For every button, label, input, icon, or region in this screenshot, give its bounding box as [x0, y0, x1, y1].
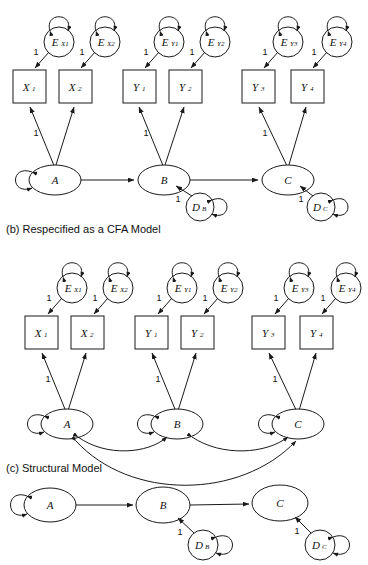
- panel-c-factor-C: C: [252, 485, 308, 521]
- label-X1-sub: 1: [32, 85, 36, 93]
- panel-b-error-EY1: E Y1: [167, 263, 197, 303]
- coef-1: 1: [155, 374, 160, 384]
- panel-a-error-EY2: E Y2: [200, 17, 230, 57]
- panel-b-indicator-Y2: Y 2: [181, 316, 214, 349]
- coef-1: 1: [143, 47, 148, 57]
- panel-b-error-EY3: E Y3: [284, 263, 314, 303]
- coef-1: 1: [273, 293, 278, 303]
- label-EY3-sub: Y3: [290, 40, 298, 48]
- panel-a-indicator-Y2: Y 2: [169, 70, 202, 103]
- path-B-to-Y2: [164, 107, 184, 168]
- path-A-to-X2: [67, 353, 86, 414]
- caption-panel-b: (b) Respecified as a CFA Model: [6, 223, 161, 235]
- panel-c-factor-A: A: [11, 488, 77, 522]
- panel-c-factor-B: B: [136, 487, 190, 523]
- label-Y4-sub: 4: [310, 85, 314, 93]
- panel-a-error-EY1: E Y1: [154, 17, 184, 57]
- label-E: E: [329, 36, 337, 48]
- coef-1: 1: [177, 527, 182, 537]
- panel-b-factor-B: B: [138, 409, 204, 439]
- panel-b-error-EY2: E Y2: [213, 263, 243, 303]
- coef-1: 1: [189, 47, 194, 57]
- coef-1: 1: [33, 128, 38, 138]
- panel-c-disturbance-DB: D B 1: [177, 518, 232, 560]
- caption-panel-c: (c) Structural Model: [6, 462, 102, 474]
- panel-b-indicator-X1: X 1: [25, 316, 58, 349]
- label-A: A: [46, 499, 54, 511]
- panel-b-indicator-Y4: Y 4: [300, 316, 333, 349]
- panel-b-indicator-Y1: Y 1: [135, 316, 168, 349]
- coef-1: 1: [92, 293, 97, 303]
- label-D: D: [191, 201, 200, 213]
- label-EY1-sub: Y1: [184, 286, 191, 294]
- path-C-to-Y4: [288, 107, 306, 168]
- coef-1: 1: [45, 374, 50, 384]
- label-D: D: [312, 201, 321, 213]
- label-EX1-sub: X1: [73, 286, 82, 294]
- label-X2-sub: 2: [78, 85, 82, 93]
- label-E: E: [338, 282, 346, 294]
- panel-b-factor-C: C: [259, 409, 325, 439]
- label-X: X: [80, 327, 89, 339]
- label-DC-sub: C: [323, 205, 328, 213]
- coef-1: 1: [202, 293, 207, 303]
- label-EX2-sub: X2: [106, 40, 115, 48]
- label-DC-sub: C: [322, 543, 327, 551]
- label-B: B: [161, 174, 168, 186]
- label-EY4-sub: Y4: [348, 286, 356, 294]
- label-X: X: [22, 81, 31, 93]
- label-EY3-sub: Y3: [301, 286, 309, 294]
- label-A: A: [51, 174, 59, 186]
- panel-a-error-EX1: E X1: [44, 17, 74, 57]
- label-B: B: [174, 418, 181, 430]
- panel-a-indicator-X1: X 1: [13, 70, 46, 103]
- label-Y3-sub: 3: [270, 331, 275, 339]
- panel-a-indicator-Y4: Y 4: [291, 70, 324, 103]
- label-Y2-sub: 2: [200, 331, 204, 339]
- label-E: E: [207, 36, 215, 48]
- panel-b-error-EX1: E X1: [57, 263, 87, 303]
- coef-1: 1: [294, 526, 299, 536]
- label-Y1-sub: 1: [142, 85, 146, 93]
- label-DB-sub: B: [202, 205, 207, 213]
- panel-a-error-EX2: E X2: [90, 17, 120, 57]
- label-E: E: [64, 282, 72, 294]
- coef-1: 1: [33, 47, 38, 57]
- coef-1: 1: [298, 194, 303, 204]
- label-C: C: [276, 497, 284, 509]
- panel-b-factor-A: A: [28, 409, 94, 439]
- panel-c-disturbance-DC: D C 1: [294, 517, 349, 560]
- label-DB-sub: B: [205, 543, 210, 551]
- label-C: C: [284, 174, 292, 186]
- label-EY2-sub: Y2: [217, 40, 225, 48]
- coef-1: 1: [262, 47, 267, 57]
- sem-diagram-svg: E X1 E X2 E Y1 E Y2: [0, 0, 368, 565]
- covariance-A-C: [76, 441, 296, 485]
- label-Y3-sub: 3: [260, 85, 265, 93]
- label-E: E: [97, 36, 105, 48]
- coef-1: 1: [143, 128, 148, 138]
- label-D: D: [194, 539, 203, 551]
- label-D: D: [311, 539, 320, 551]
- coef-1: 1: [311, 47, 316, 57]
- label-C: C: [294, 418, 302, 430]
- coef-1: 1: [175, 194, 180, 204]
- panel-a-error-EY3: E Y3: [273, 17, 303, 57]
- label-E: E: [51, 36, 59, 48]
- label-Y2-sub: 2: [188, 85, 192, 93]
- label-E: E: [110, 282, 118, 294]
- panel-b-error-EY4: E Y4: [331, 263, 361, 303]
- label-EX1-sub: X1: [60, 40, 69, 48]
- panel-a-factor-A: A: [16, 165, 82, 195]
- path-B-to-Y2: [177, 353, 196, 414]
- label-E: E: [280, 36, 288, 48]
- label-Y1-sub: 1: [154, 331, 158, 339]
- panel-b-indicator-X2: X 2: [71, 316, 104, 349]
- label-B: B: [160, 499, 167, 511]
- panel-a-indicator-Y3: Y 3: [242, 70, 275, 103]
- panel-a: E X1 E X2 E Y1 E Y2: [13, 17, 352, 221]
- label-EX2-sub: X2: [119, 286, 128, 294]
- panel-a-error-EY4: E Y4: [322, 17, 352, 57]
- path-B-to-C: [190, 504, 249, 505]
- label-X: X: [34, 327, 43, 339]
